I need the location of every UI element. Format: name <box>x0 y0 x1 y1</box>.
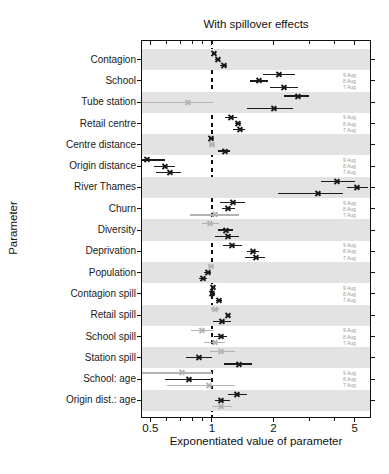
y-axis-tick <box>371 144 375 145</box>
ci-line <box>167 385 236 386</box>
y-axis-tick <box>137 251 141 252</box>
point-marker <box>211 211 218 218</box>
y-axis-tick <box>371 187 375 188</box>
point-marker <box>218 318 225 325</box>
y-axis-tick <box>371 102 375 103</box>
y-axis-tick <box>137 208 141 209</box>
point-marker <box>280 84 287 91</box>
parameter-label: Retail centre <box>18 117 136 131</box>
y-axis-tick <box>371 251 375 252</box>
grid-band <box>142 219 370 240</box>
date-label: 7 Aug <box>343 255 356 260</box>
point-marker <box>217 348 224 355</box>
x-axis-minor-tick <box>166 41 167 44</box>
y-axis-tick <box>371 123 375 124</box>
x-axis-label: Exponentiated value of parameter <box>141 435 371 447</box>
x-axis-minor-tick <box>334 41 335 44</box>
x-axis-minor-tick <box>309 41 310 44</box>
y-axis-tick <box>137 336 141 337</box>
point-marker <box>225 312 232 319</box>
point-marker <box>215 297 222 304</box>
ci-line <box>278 193 344 194</box>
parameter-label: Deprivation <box>18 244 136 258</box>
y-axis-tick <box>137 315 141 316</box>
date-label: 7 Aug <box>343 383 356 388</box>
y-axis-tick <box>371 400 375 401</box>
point-marker <box>217 403 224 410</box>
point-marker <box>220 62 227 69</box>
grid-band <box>142 262 370 283</box>
y-axis-tick <box>371 80 375 81</box>
grid-band <box>142 347 370 368</box>
x-tick-label: 5 <box>352 422 358 434</box>
point-marker <box>236 126 243 133</box>
y-axis-tick <box>137 102 141 103</box>
point-marker <box>211 339 218 346</box>
point-marker <box>353 184 360 191</box>
y-axis-tick <box>137 400 141 401</box>
parameter-label: School: age <box>18 372 136 386</box>
point-marker <box>224 233 231 240</box>
y-axis-tick <box>137 272 141 273</box>
grid-band <box>142 390 370 411</box>
y-axis-tick <box>137 166 141 167</box>
point-marker <box>198 327 205 334</box>
y-axis-tick <box>137 144 141 145</box>
point-marker <box>235 361 242 368</box>
date-label: 7 Aug <box>343 170 356 175</box>
point-marker <box>227 114 234 121</box>
parameter-label: Centre distance <box>18 138 136 152</box>
date-label: 7 Aug <box>343 340 356 345</box>
parameter-label: Retail spill <box>18 308 136 322</box>
y-axis-tick <box>371 166 375 167</box>
x-axis-tick <box>211 41 212 45</box>
y-axis-tick <box>371 59 375 60</box>
y-axis-tick <box>371 357 375 358</box>
point-marker <box>233 391 240 398</box>
y-axis-tick <box>371 293 375 294</box>
y-axis-tick <box>371 315 375 316</box>
parameter-label: Origin distance <box>18 159 136 173</box>
ci-line <box>142 372 212 373</box>
x-tick-label: 0.5 <box>142 422 158 434</box>
parameter-label: Churn <box>18 202 136 216</box>
x-axis-minor-tick <box>202 418 203 421</box>
point-marker <box>256 77 263 84</box>
point-marker <box>205 382 212 389</box>
chart-title: With spillover effects <box>141 18 371 30</box>
point-marker <box>208 141 215 148</box>
parameter-label: Station spill <box>18 351 136 365</box>
parameter-label: Origin dist.: age <box>18 393 136 407</box>
parameter-label: School spill <box>18 330 136 344</box>
parameter-label: Tube station <box>18 95 136 109</box>
y-axis-tick <box>371 208 375 209</box>
date-label: 7 Aug <box>343 212 356 217</box>
x-axis-tick <box>150 41 151 45</box>
point-marker <box>228 242 235 249</box>
y-axis-tick <box>137 230 141 231</box>
grid-band <box>142 305 370 326</box>
x-axis-minor-tick <box>334 418 335 421</box>
parameter-label: Contagion <box>18 53 136 67</box>
y-axis-tick <box>137 187 141 188</box>
x-axis-tick <box>273 41 274 45</box>
x-axis-minor-tick <box>180 41 181 44</box>
y-axis-tick <box>137 357 141 358</box>
x-axis-minor-tick <box>180 418 181 421</box>
point-marker <box>334 178 341 185</box>
parameter-label: Population <box>18 266 136 280</box>
ci-line <box>142 102 213 103</box>
point-marker <box>166 169 173 176</box>
date-label: 7 Aug <box>343 85 356 90</box>
point-marker <box>225 205 232 212</box>
date-label: 7 Aug <box>343 127 356 132</box>
y-axis-tick <box>137 293 141 294</box>
point-marker <box>184 99 191 106</box>
x-axis-minor-tick <box>202 41 203 44</box>
parameter-label: Diversity <box>18 223 136 237</box>
point-marker <box>195 354 202 361</box>
y-axis-tick <box>137 123 141 124</box>
y-axis-tick <box>371 379 375 380</box>
x-axis-tick <box>354 41 355 45</box>
point-marker <box>143 156 150 163</box>
